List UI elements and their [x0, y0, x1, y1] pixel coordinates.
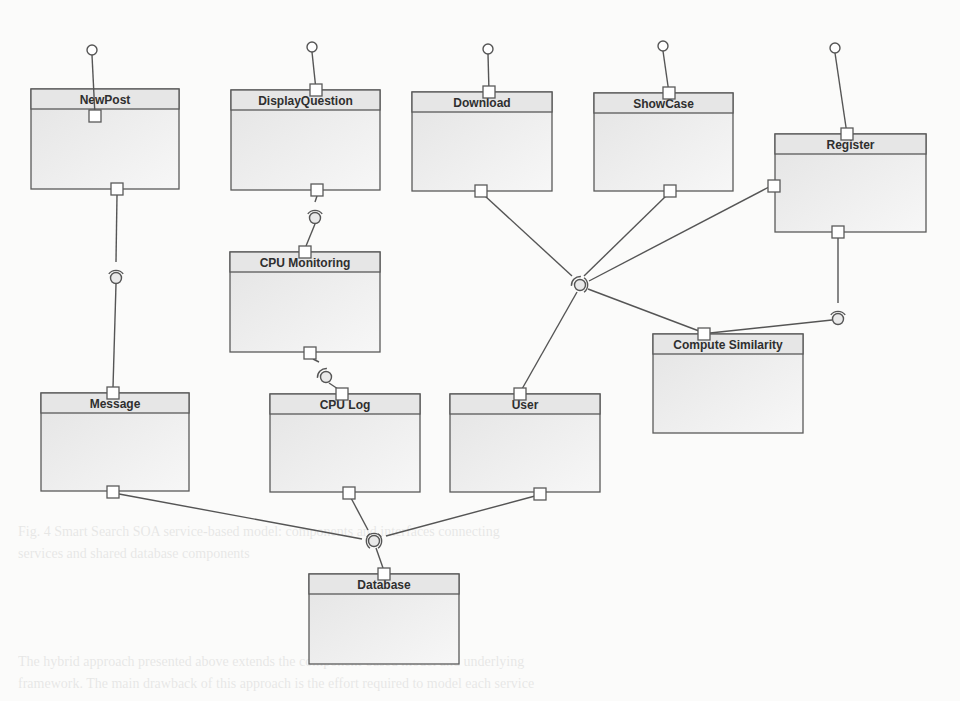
port-icon [534, 488, 546, 500]
port-icon [311, 184, 323, 196]
lollipop-interface[interactable] [658, 41, 669, 93]
component-displayq[interactable]: DisplayQuestion [231, 90, 380, 190]
port-icon [336, 388, 348, 400]
port-icon [483, 86, 495, 98]
port-icon [111, 183, 123, 195]
component-title: Compute Similarity [673, 338, 783, 352]
component-cpumon[interactable]: CPU Monitoring [230, 252, 380, 352]
port-icon [89, 110, 101, 122]
component-title: DisplayQuestion [258, 94, 353, 108]
component-title: NewPost [80, 93, 131, 107]
lollipop-icon [483, 44, 493, 54]
component-newpost[interactable]: NewPost [31, 89, 179, 189]
port-icon [768, 180, 780, 192]
ball-icon [310, 213, 321, 224]
component-message[interactable]: Message [41, 393, 189, 491]
connector [710, 238, 838, 333]
port-icon [475, 185, 487, 197]
connector [113, 195, 117, 387]
component-user[interactable]: User [450, 394, 600, 492]
lollipop-icon [658, 41, 668, 51]
lollipop-icon [307, 42, 317, 52]
ball-icon [321, 372, 332, 383]
ball-icon [111, 273, 122, 284]
port-icon [378, 568, 390, 580]
ball-icon [575, 280, 586, 291]
port-icon [841, 128, 853, 140]
port-icon [107, 486, 119, 498]
port-icon [304, 347, 316, 359]
port-icon [663, 87, 675, 99]
component-showcase[interactable]: ShowCase [594, 93, 733, 191]
component-title: Download [453, 96, 510, 110]
lollipop-icon [87, 45, 97, 55]
component-compsim[interactable]: Compute Similarity [653, 334, 803, 433]
port-icon [832, 226, 844, 238]
lollipop-interface[interactable] [830, 43, 847, 134]
port-icon [343, 487, 355, 499]
lollipop-interface[interactable] [307, 42, 317, 90]
ball-icon [369, 536, 380, 547]
port-icon [310, 84, 322, 96]
port-icon [698, 328, 710, 340]
component-diagram: NewPostDisplayQuestionDownloadShowCaseRe… [0, 0, 960, 701]
port-icon [514, 388, 526, 400]
port-icon [107, 387, 119, 399]
ball-icon [833, 314, 844, 325]
component-register[interactable]: Register [775, 134, 926, 232]
port-icon [299, 246, 311, 258]
component-download[interactable]: Download [412, 92, 552, 191]
component-database[interactable]: Database [309, 574, 459, 664]
lollipop-interface[interactable] [483, 44, 493, 92]
components: NewPostDisplayQuestionDownloadShowCaseRe… [31, 89, 926, 664]
connector [119, 494, 535, 568]
lollipop-icon [830, 43, 840, 53]
component-cpulog[interactable]: CPU Log [270, 394, 420, 492]
port-icon [664, 185, 676, 197]
